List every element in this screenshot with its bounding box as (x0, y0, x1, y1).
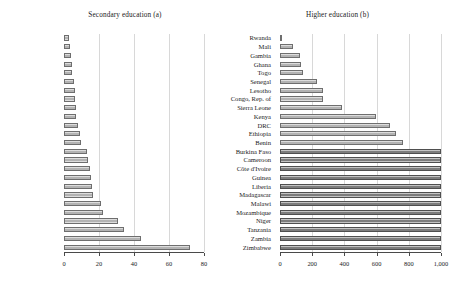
bar (64, 123, 78, 128)
category-label: Ethiopia (121, 131, 271, 138)
category-label: Madagascar (121, 192, 271, 199)
axis-tick-label: 1,000 (434, 260, 448, 267)
bar-row (280, 218, 441, 223)
bar-row (280, 53, 441, 58)
bar (64, 149, 87, 154)
axis-tick (204, 253, 205, 257)
bar (280, 236, 441, 241)
bar (64, 96, 75, 101)
axis-tick (377, 253, 378, 257)
bar (280, 245, 441, 250)
axis-tick (409, 253, 410, 257)
bar (280, 210, 441, 215)
bar (280, 149, 441, 154)
category-label: Malawi (121, 201, 271, 208)
bar-row (280, 157, 441, 162)
bar-row (280, 131, 441, 136)
category-label: DRC (121, 122, 271, 129)
bar (64, 53, 71, 58)
category-label: Mozambique (121, 209, 271, 216)
axis-tick-label: 0 (278, 260, 281, 267)
category-label: Kenya (121, 114, 271, 121)
axis-tick (134, 253, 135, 257)
axis-tick (344, 253, 345, 257)
axis-tick-label: 80 (201, 260, 207, 267)
bar-row (280, 184, 441, 189)
axis-tick (169, 253, 170, 257)
bar-row (280, 227, 441, 232)
bar (64, 35, 69, 40)
axis-tick-label: 200 (307, 260, 317, 267)
bar (64, 131, 80, 136)
category-label: Mali (121, 44, 271, 51)
panel-b-title: Higher education (b) (222, 11, 449, 19)
category-label: Zambia (121, 236, 271, 243)
category-label: Senegal (121, 79, 271, 86)
bar (280, 201, 441, 206)
bar (280, 88, 323, 93)
category-label: Lesotho (121, 87, 271, 94)
bar-row (280, 96, 441, 101)
bar (280, 70, 303, 75)
bar (64, 210, 103, 215)
category-label: Sierra Leone (121, 105, 271, 112)
panel-b-bars (280, 34, 441, 252)
bar-row (280, 123, 441, 128)
bar-row (280, 44, 441, 49)
bar (64, 105, 76, 110)
bar-row (280, 236, 441, 241)
category-label: Tanzania (121, 227, 271, 234)
bar (64, 192, 93, 197)
axis-tick (99, 253, 100, 257)
bar-row (280, 79, 441, 84)
category-label: Gambia (121, 53, 271, 60)
bar-row (280, 245, 441, 250)
bar-row (280, 210, 441, 215)
category-label: Niger (121, 218, 271, 225)
panel-b-plot-area: 02004006008001,000 RwandaMaliGambiaGhana… (280, 34, 441, 252)
category-label: Cameroon (121, 157, 271, 164)
axis-tick-label: 20 (96, 260, 102, 267)
bar-row (280, 175, 441, 180)
panel-a-title: Secondary education (a) (0, 11, 236, 19)
bar (64, 175, 91, 180)
category-label: Côte d'Ivoire (121, 166, 271, 173)
bar-row (280, 149, 441, 154)
bar (64, 70, 72, 75)
bar (280, 53, 300, 58)
bar (280, 114, 376, 119)
bar (64, 227, 124, 232)
bar (280, 62, 301, 67)
bar-row (280, 70, 441, 75)
bar (280, 157, 441, 162)
bar (64, 218, 118, 223)
bar-row (280, 114, 441, 119)
bar (280, 184, 441, 189)
bar (280, 175, 441, 180)
bar (280, 227, 441, 232)
bar-row (280, 166, 441, 171)
bar-row (280, 62, 441, 67)
bar (64, 62, 72, 67)
bar (64, 157, 88, 162)
axis-tick (280, 253, 281, 257)
bar (280, 96, 323, 101)
bar (64, 114, 76, 119)
bar (280, 140, 403, 145)
bar-row (280, 192, 441, 197)
axis-tick-label: 60 (166, 260, 172, 267)
bar (64, 88, 75, 93)
category-label: Liberia (121, 183, 271, 190)
panel-higher-education: Higher education (b) 02004006008001,000 … (222, 0, 445, 283)
bar (64, 79, 74, 84)
axis-tick-label: 0 (62, 260, 65, 267)
axis-tick-label: 400 (340, 260, 350, 267)
category-label: Rwanda (121, 35, 271, 42)
bar (280, 166, 441, 171)
bar (280, 218, 441, 223)
bar (64, 166, 90, 171)
bar (280, 192, 441, 197)
category-label: Burkina Faso (121, 148, 271, 155)
bar (280, 44, 293, 49)
axis-tick (441, 253, 442, 257)
